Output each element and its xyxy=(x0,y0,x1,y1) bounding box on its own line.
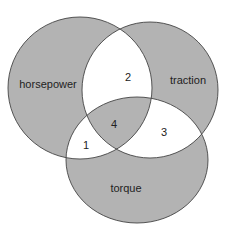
torque-label: torque xyxy=(110,182,141,194)
venn-diagram: horsepower traction torque 1 2 3 4 xyxy=(0,0,226,233)
region-label-2: 2 xyxy=(125,71,131,83)
region-label-3: 3 xyxy=(161,126,167,138)
region-label-1: 1 xyxy=(83,139,89,151)
region-label-4: 4 xyxy=(111,118,117,130)
traction-label: traction xyxy=(170,74,206,86)
horsepower-label: horsepower xyxy=(19,78,77,90)
